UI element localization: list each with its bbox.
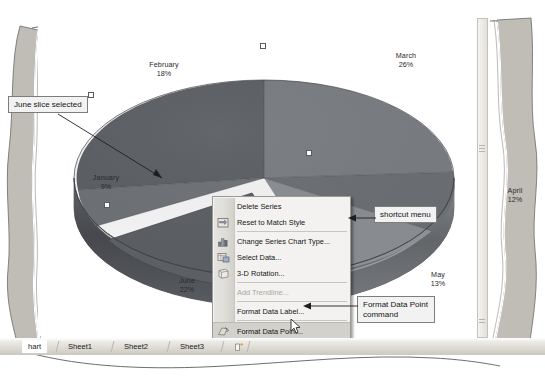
- menu-item-label: Format Data Label...: [237, 307, 304, 316]
- menu-item-label: Delete Series: [237, 202, 281, 211]
- menu-item-label: Add Trendline...: [237, 288, 289, 297]
- data-label-april-percent: 12%: [490, 195, 540, 204]
- selection-handle[interactable]: [104, 202, 110, 208]
- data-label-march: March 26%: [378, 51, 434, 69]
- reset-style-icon: [216, 216, 231, 229]
- shortcut-menu[interactable]: Delete Series Reset to Match Style Chang…: [212, 196, 351, 342]
- menu-item-select-data[interactable]: Select Data...: [213, 249, 350, 265]
- data-label-april-name: April: [508, 186, 523, 195]
- selection-handle[interactable]: [260, 43, 266, 49]
- callout-text: Format Data Point command: [363, 300, 428, 319]
- data-label-may-percent: 13%: [413, 279, 463, 288]
- callout-shortcut-menu: shortcut menu: [374, 206, 437, 223]
- menu-item-delete-series[interactable]: Delete Series: [213, 198, 350, 214]
- callout-format-data-point-command: Format Data Point command: [357, 296, 435, 323]
- callout-text: June slice selected: [14, 100, 82, 109]
- callout-text: shortcut menu: [380, 210, 431, 219]
- callout-june-slice-selected: June slice selected: [8, 96, 88, 113]
- data-label-june-name: June: [179, 276, 195, 285]
- menu-item-label: Select Data...: [237, 253, 281, 262]
- data-label-may-name: May: [431, 270, 445, 279]
- sheet-tab-bar[interactable]: hart Sheet1 Sheet2 Sheet3: [0, 338, 545, 355]
- mouse-cursor-icon: [290, 318, 303, 335]
- data-label-june-percent: 22%: [162, 285, 212, 294]
- sheet-tab-sheet3[interactable]: Sheet3: [174, 340, 210, 353]
- data-label-june: June 22%: [162, 276, 212, 294]
- sheet-tab-label: hart: [28, 342, 41, 351]
- menu-item-change-series-chart-type[interactable]: Change Series Chart Type...: [213, 233, 350, 249]
- callout-leader-june: [56, 112, 176, 192]
- data-label-february-name: February: [149, 60, 179, 69]
- menu-separator: [237, 282, 347, 283]
- menu-separator: [237, 231, 347, 232]
- data-label-march-name: March: [396, 51, 416, 60]
- scanned-page: February 18% March 26% April 12% May 13%…: [0, 0, 545, 378]
- data-label-april: April 12%: [490, 186, 540, 204]
- insert-sheet-icon: [234, 342, 244, 352]
- sheet-tab-sheet2[interactable]: Sheet2: [118, 340, 154, 353]
- menu-item-3d-rotation[interactable]: 3-D Rotation...: [213, 265, 350, 281]
- data-label-february-percent: 18%: [134, 69, 194, 78]
- chart-type-icon: [216, 235, 231, 248]
- selection-handle[interactable]: [306, 150, 312, 156]
- rotation-icon: [216, 267, 231, 280]
- data-label-may: May 13%: [413, 270, 463, 288]
- selection-handle[interactable]: [88, 92, 94, 98]
- format-point-icon: [216, 325, 231, 338]
- sheet-tab-label: Sheet3: [180, 342, 204, 351]
- menu-item-label: 3-D Rotation...: [237, 269, 285, 278]
- menu-item-label: Reset to Match Style: [237, 218, 305, 227]
- data-label-march-percent: 26%: [378, 60, 434, 69]
- select-data-icon: [216, 251, 231, 264]
- menu-item-label: Change Series Chart Type...: [237, 237, 330, 246]
- menu-item-add-trendline: Add Trendline...: [213, 284, 350, 300]
- sheet-tab-label: Sheet1: [68, 342, 92, 351]
- menu-item-reset-to-match-style[interactable]: Reset to Match Style: [213, 214, 350, 230]
- sheet-tab-label: Sheet2: [124, 342, 148, 351]
- callout-leader-shortcut: [346, 212, 378, 224]
- data-label-february: February 18%: [134, 60, 194, 78]
- sheet-tab-chart[interactable]: hart: [22, 340, 47, 353]
- sheet-tab-sheet1[interactable]: Sheet1: [62, 340, 98, 353]
- callout-leader-format: [300, 300, 362, 312]
